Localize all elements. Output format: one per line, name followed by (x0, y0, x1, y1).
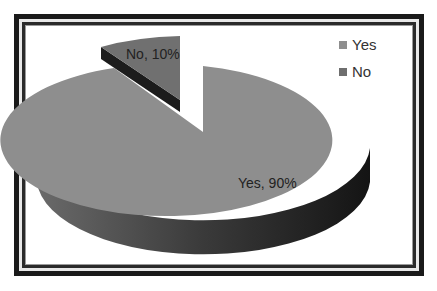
legend: Yes No (339, 31, 376, 85)
legend-label-yes: Yes (352, 36, 376, 53)
pie-slice-yes[interactable] (0, 66, 370, 254)
legend-item-yes[interactable]: Yes (339, 31, 376, 58)
data-label-no: No, 10% (126, 46, 180, 62)
data-label-yes: Yes, 90% (238, 175, 297, 191)
legend-swatch-no-icon (339, 68, 347, 76)
legend-swatch-yes-icon (339, 41, 347, 49)
legend-label-no: No (352, 63, 371, 80)
legend-item-no[interactable]: No (339, 58, 376, 85)
